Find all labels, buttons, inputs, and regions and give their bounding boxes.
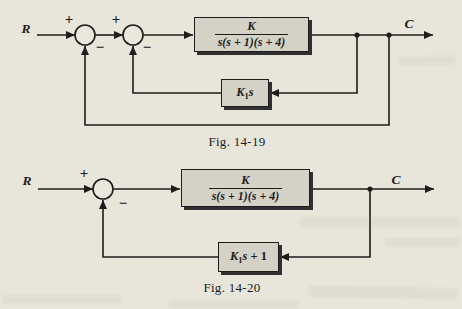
fig1-input-label: R	[21, 22, 30, 36]
fig1-sum1-plus-sign: +	[65, 12, 74, 27]
fraction-numerator: K	[215, 20, 289, 34]
fig1-forward-transfer-block: K s(s + 1)(s + 4)	[194, 17, 309, 52]
fig2-sum-plus-sign: +	[80, 166, 89, 181]
transfer-function-fraction: K s(s + 1)(s + 4)	[215, 20, 289, 49]
fig1-sum2-plus-sign: +	[112, 12, 121, 27]
fig2-feedback-block: K1s + 1	[218, 242, 279, 272]
fraction-denominator: s(s + 1)(s + 4)	[215, 34, 289, 49]
feedback-coef: K	[236, 85, 244, 99]
summing-junction-1	[75, 25, 95, 45]
fig2-forward-transfer-block: K s(s + 1)(s + 4)	[181, 169, 310, 207]
transfer-function-fraction: K s(s + 1)(s + 4)	[209, 174, 283, 203]
fig2-sum-minus-sign: −	[119, 196, 128, 211]
feedback-rest: + 1	[247, 249, 267, 263]
summing-junction	[93, 179, 113, 199]
feedback-var: s	[249, 85, 254, 99]
summing-junction-2	[123, 25, 143, 45]
feedback-expression: K1s	[236, 85, 253, 101]
fig2-output-label: C	[391, 173, 400, 187]
fraction-denominator: s(s + 1)(s + 4)	[209, 188, 283, 203]
fig1-feedback-block: K1s	[221, 79, 269, 107]
fig1-output-label: C	[404, 17, 413, 31]
fig2-caption: Fig. 14-20	[203, 281, 260, 294]
fraction-numerator: K	[209, 174, 283, 188]
fig2-input-label: R	[22, 174, 31, 188]
fig1-sum2-minus-sign: −	[143, 40, 152, 55]
fig1-caption: Fig. 14-19	[208, 135, 265, 148]
scanned-textbook-page: R + − + − K s(s + 1)(s + 4) K1s C Fig. 1…	[0, 0, 462, 309]
fig1-sum1-minus-sign: −	[96, 40, 105, 55]
feedback-expression: K1s + 1	[230, 249, 267, 265]
